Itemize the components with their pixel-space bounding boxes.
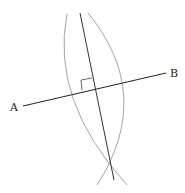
diagram-canvas: A B xyxy=(0,0,185,193)
construction-arc-left xyxy=(64,14,127,185)
perpendicular-bisector xyxy=(80,13,114,180)
point-label-b: B xyxy=(170,67,178,80)
point-label-a: A xyxy=(9,101,19,114)
right-angle-marker xyxy=(81,78,92,90)
segment-ab xyxy=(23,73,166,106)
